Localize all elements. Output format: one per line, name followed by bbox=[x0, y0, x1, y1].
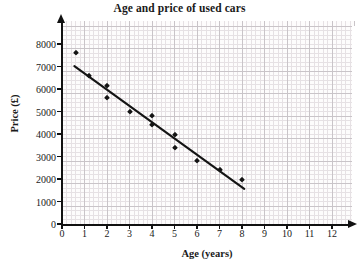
y-tick-label: 0 bbox=[20, 219, 56, 230]
chart-title: Age and price of used cars bbox=[0, 2, 359, 14]
y-tick bbox=[57, 133, 62, 134]
x-tick-label: 6 bbox=[187, 228, 207, 239]
x-tick-label: 10 bbox=[277, 228, 297, 239]
y-tick bbox=[57, 201, 62, 202]
x-axis-line bbox=[61, 224, 351, 226]
y-axis-title: Price (£) bbox=[9, 69, 20, 159]
x-tick-label: 4 bbox=[142, 228, 162, 239]
y-tick-label: 1000 bbox=[20, 196, 56, 207]
y-tick bbox=[57, 66, 62, 67]
y-tick bbox=[57, 156, 62, 157]
y-tick bbox=[57, 88, 62, 89]
x-tick-label: 9 bbox=[255, 228, 275, 239]
y-tick-label: 7000 bbox=[20, 61, 56, 72]
x-tick-label: 7 bbox=[210, 228, 230, 239]
y-tick-label: 8000 bbox=[20, 39, 56, 50]
y-tick-label: 4000 bbox=[20, 129, 56, 140]
y-tick bbox=[57, 178, 62, 179]
y-tick bbox=[57, 43, 62, 44]
x-tick-label: 3 bbox=[120, 228, 140, 239]
x-tick-label: 1 bbox=[75, 228, 95, 239]
y-axis-line bbox=[61, 21, 63, 226]
y-tick-label: 3000 bbox=[20, 151, 56, 162]
x-tick-label: 2 bbox=[97, 228, 117, 239]
y-tick-label: 6000 bbox=[20, 84, 56, 95]
x-tick-label: 5 bbox=[165, 228, 185, 239]
y-axis-arrow-icon bbox=[57, 14, 65, 23]
x-axis-title: Age (years) bbox=[62, 248, 352, 259]
x-tick-label: 12 bbox=[322, 228, 342, 239]
grid-paper bbox=[62, 26, 352, 224]
chart-figure: Age and price of used cars 0100020003000… bbox=[0, 0, 359, 269]
x-tick-label: 0 bbox=[52, 228, 72, 239]
x-tick-label: 11 bbox=[300, 228, 320, 239]
y-tick bbox=[57, 111, 62, 112]
y-tick-label: 5000 bbox=[20, 106, 56, 117]
x-tick-label: 8 bbox=[232, 228, 252, 239]
y-tick-label: 2000 bbox=[20, 174, 56, 185]
x-axis-arrow-icon bbox=[348, 220, 357, 228]
